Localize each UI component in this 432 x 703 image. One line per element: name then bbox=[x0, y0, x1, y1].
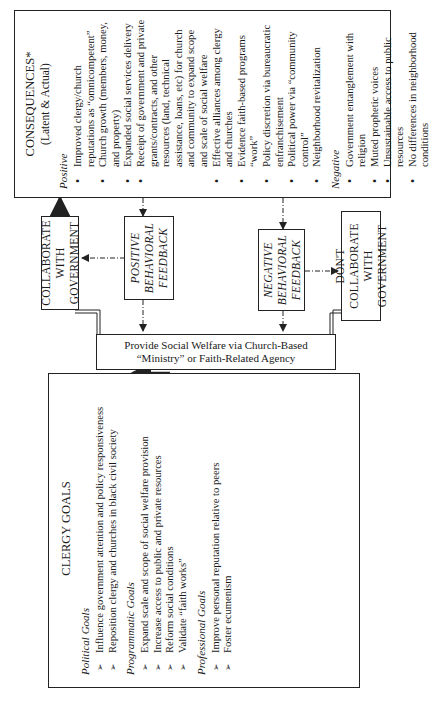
clergy-goals-title: CLERGY GOALS bbox=[59, 382, 74, 675]
consequence-item: Improved clergy/church reputations as “o… bbox=[72, 19, 97, 189]
dont-collaborate-line-2: WITH GOVERNMENT bbox=[361, 212, 389, 320]
consequence-item: Church growth (members, money, and prope… bbox=[97, 19, 122, 189]
positive-feedback-line-3: FEEDBACK bbox=[156, 228, 170, 288]
consequences-subtitle: (Latent & Actual) bbox=[38, 19, 52, 189]
negative-feedback-line-1: NEGATIVE bbox=[261, 242, 275, 297]
goal-item: Expand scale and scope of social welfare… bbox=[139, 382, 152, 675]
negative-feedback-line-2: BEHAVIORAL bbox=[275, 235, 289, 305]
consequence-item: Receipt of government and private grants… bbox=[135, 19, 211, 189]
political-goals-heading: Political Goals bbox=[79, 382, 91, 675]
consequence-item: No differences in neighborhood condition… bbox=[407, 19, 432, 189]
collaborate-line-2: GOVERNMENT bbox=[67, 222, 81, 305]
dont-collaborate-box: DON'T COLLABORATE WITH GOVERNMENT bbox=[341, 211, 381, 321]
professional-goals-heading: Professional Goals bbox=[195, 382, 207, 675]
clergy-goals-box: CLERGY GOALS Political Goals Influence g… bbox=[48, 373, 360, 688]
consequence-item: Effective alliances among clergy and chu… bbox=[211, 19, 236, 189]
negative-feedback-box: NEGATIVE BEHAVIORAL FEEDBACK bbox=[258, 229, 305, 311]
consequence-item: Evidence faith-based programs “work” bbox=[236, 19, 261, 189]
consequence-item: Muted prophetic voices bbox=[369, 19, 382, 189]
provide-social-welfare-box: Provide Social Welfare via Church-Based … bbox=[96, 334, 336, 370]
goal-item: Increase access to public and private re… bbox=[152, 382, 165, 675]
positive-feedback-line-1: POSITIVE bbox=[128, 233, 142, 284]
collaborate-line-1: COLLABORATE WITH bbox=[39, 217, 67, 309]
goal-item: Reposition clergy and churches in black … bbox=[107, 382, 120, 675]
goal-item: Reform social conditions bbox=[164, 382, 177, 675]
provide-line-1: Provide Social Welfare via Church-Based bbox=[124, 339, 307, 352]
provide-line-2: “Ministry” or Faith-Related Agency bbox=[124, 352, 307, 365]
negative-feedback-line-3: FEEDBACK bbox=[289, 240, 303, 300]
consequence-item: Government entanglement with religion bbox=[344, 19, 369, 189]
programmatic-goals-list: Expand scale and scope of social welfare… bbox=[139, 382, 189, 675]
consequence-item: Expanded social services delivery bbox=[122, 19, 135, 189]
consequence-item: Neighborhood revitalization bbox=[311, 19, 324, 189]
positive-feedback-box: POSITIVE BEHAVIORAL FEEDBACK bbox=[124, 216, 174, 300]
consequences-title: CONSEQUENCES* bbox=[23, 19, 38, 189]
programmatic-goals-heading: Programmatic Goals bbox=[124, 382, 136, 675]
positive-consequences-list: Improved clergy/church reputations as “o… bbox=[72, 19, 324, 189]
consequence-item: Unsustainable access to public resources bbox=[382, 19, 407, 189]
consequence-item: Policy discretion via bureaucratic enfra… bbox=[261, 19, 286, 189]
negative-heading: Negative bbox=[329, 19, 341, 189]
goal-item: Foster ecumenism bbox=[222, 382, 235, 675]
positive-feedback-line-2: BEHAVIORAL bbox=[142, 223, 156, 293]
positive-heading: Positive bbox=[57, 19, 69, 189]
dont-collaborate-line-1: DON'T COLLABORATE bbox=[333, 212, 361, 320]
goal-item: Validate “faith works” bbox=[177, 382, 190, 675]
consequence-item: Political power via “community control” bbox=[286, 19, 311, 189]
consequences-box: CONSEQUENCES* (Latent & Actual) Positive… bbox=[14, 10, 391, 198]
collaborate-box: COLLABORATE WITH GOVERNMENT bbox=[41, 216, 79, 310]
negative-consequences-list: Government entanglement with religion Mu… bbox=[344, 19, 432, 189]
goal-item: Influence government attention and polic… bbox=[94, 382, 107, 675]
professional-goals-list: Improve personal reputation relative to … bbox=[210, 382, 235, 675]
political-goals-list: Influence government attention and polic… bbox=[94, 382, 119, 675]
goal-item: Improve personal reputation relative to … bbox=[210, 382, 223, 675]
